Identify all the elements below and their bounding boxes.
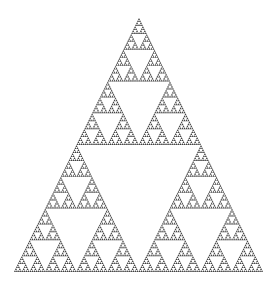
- sierpinski-figure: [0, 0, 277, 295]
- fractal-canvas: [0, 0, 277, 295]
